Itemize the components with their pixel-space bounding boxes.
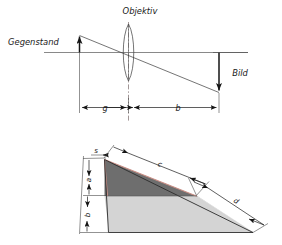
label-gegenstand: Gegenstand xyxy=(8,37,60,47)
label-c: c xyxy=(156,159,163,169)
figure-canvas: Objektiv Gegenstand Bild g b s a b c d xyxy=(0,0,282,245)
label-g: g xyxy=(102,104,107,113)
label-a: a xyxy=(84,178,93,182)
label-b-wedge: b xyxy=(83,212,92,217)
label-objektiv: Objektiv xyxy=(123,6,159,16)
label-s: s xyxy=(94,146,98,155)
label-bild: Bild xyxy=(232,68,248,78)
label-layer: Objektiv Gegenstand Bild g b s a b c d xyxy=(0,0,282,245)
label-b: b xyxy=(175,104,180,113)
label-d: d xyxy=(232,196,241,206)
